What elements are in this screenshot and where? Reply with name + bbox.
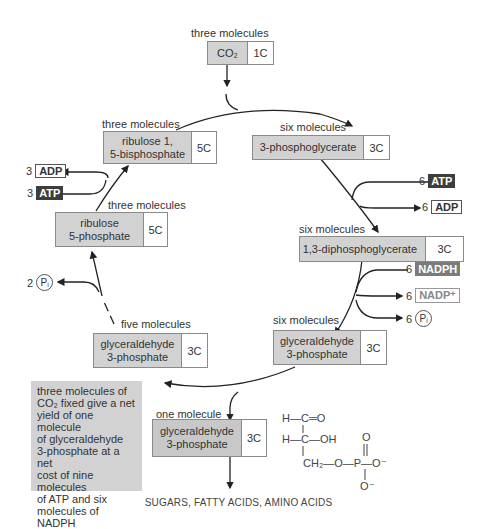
- products-label: SUGARS, FATTY ACIDS, AMINO ACIDS: [0, 497, 477, 508]
